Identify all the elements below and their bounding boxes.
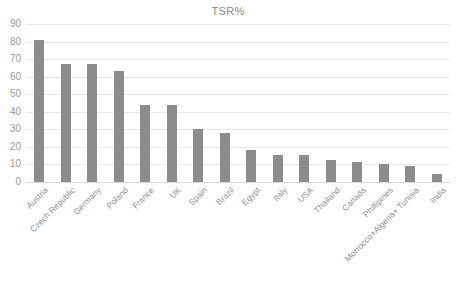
x-tick-label: France (131, 185, 157, 211)
plot-area (26, 24, 450, 182)
bar[interactable] (167, 105, 177, 182)
bar[interactable] (273, 155, 283, 182)
y-tick-label: 10 (10, 159, 21, 169)
x-tick-label: Brazil (214, 185, 236, 207)
x-tick-label: Poland (104, 185, 130, 211)
y-tick-label: 0 (15, 177, 21, 187)
y-tick-label: 30 (10, 124, 21, 134)
bar[interactable] (193, 129, 203, 182)
bars-layer (26, 24, 450, 182)
y-tick-label: 70 (10, 54, 21, 64)
x-tick-label: Spain (187, 185, 209, 207)
y-tick-label: 50 (10, 89, 21, 99)
bar[interactable] (61, 64, 71, 183)
x-tick-label: Thailand (312, 185, 342, 215)
x-tick-label: USA (296, 185, 315, 204)
x-axis-category-labels: AustriaCzech RepublicGermanyPolandFrance… (26, 182, 450, 290)
x-tick-label: UK (167, 185, 182, 200)
chart-container: TSR% 0102030405060708090 AustriaCzech Re… (0, 0, 456, 290)
bar[interactable] (379, 164, 389, 182)
bar[interactable] (246, 150, 256, 182)
y-axis-tick-labels: 0102030405060708090 (0, 24, 24, 182)
x-tick-label: India (428, 185, 448, 205)
bar[interactable] (114, 71, 124, 182)
bar[interactable] (34, 40, 44, 182)
y-tick-label: 40 (10, 107, 21, 117)
bar[interactable] (326, 160, 336, 182)
y-tick-label: 60 (10, 72, 21, 82)
y-tick-label: 20 (10, 142, 21, 152)
bar[interactable] (87, 64, 97, 183)
bar[interactable] (405, 166, 415, 182)
y-tick-label: 80 (10, 37, 21, 47)
x-tick-label: Egypt (240, 185, 262, 207)
bar[interactable] (352, 162, 362, 182)
bar[interactable] (220, 133, 230, 182)
y-tick-label: 90 (10, 19, 21, 29)
bar[interactable] (432, 174, 442, 182)
chart-title: TSR% (0, 5, 456, 17)
bar[interactable] (140, 105, 150, 182)
x-tick-label: Italy (271, 185, 289, 203)
bar[interactable] (299, 155, 309, 182)
